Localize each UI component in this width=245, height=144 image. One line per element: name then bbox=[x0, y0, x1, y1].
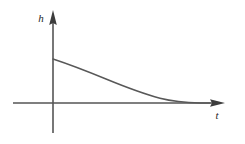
decay-graph-figure: h t bbox=[0, 0, 245, 144]
h-axis-label: h bbox=[38, 12, 44, 24]
graph-canvas: h t bbox=[0, 0, 245, 144]
figure-background bbox=[0, 0, 245, 144]
